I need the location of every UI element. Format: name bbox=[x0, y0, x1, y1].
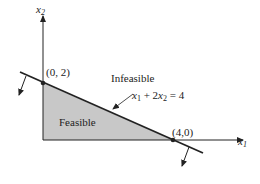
point-label-4-0: (4,0) bbox=[172, 127, 193, 138]
point-label-0-2: (0, 2) bbox=[46, 67, 70, 78]
direction-arrow-right bbox=[182, 147, 189, 166]
feasible-label: Feasible bbox=[59, 117, 96, 128]
lp-diagram bbox=[0, 0, 260, 184]
constraint-equation: x1 + 2x2 = 4 bbox=[132, 90, 184, 101]
vertex-0-2 bbox=[41, 81, 46, 86]
infeasible-label: Infeasible bbox=[111, 73, 154, 84]
vertex-4-0 bbox=[171, 138, 176, 143]
direction-arrow-left bbox=[19, 76, 26, 95]
x1-axis-label: x1 bbox=[238, 136, 247, 147]
x2-axis-label: x2 bbox=[36, 4, 45, 15]
label-leader bbox=[113, 94, 133, 109]
